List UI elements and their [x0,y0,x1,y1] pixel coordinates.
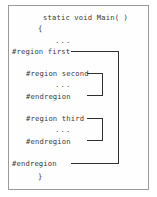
bracket-region-first-top-rule [71,51,119,52]
code-line-endregion-third: #endregion [26,137,71,146]
code-line-body-ellipsis: ... [55,36,72,45]
bracket-region-third-bottom-rule [87,140,103,141]
bracket-region-second-bottom-rule [87,95,103,96]
bracket-region-first-spine [118,51,119,164]
code-line-second-ellipsis: ... [55,80,72,89]
region-nesting-diagram: static void Main( ) { ... #region first … [0,0,157,197]
figure-frame: static void Main( ) { ... #region first … [8,5,149,190]
code-line-region-third: #region third [26,114,84,123]
code-line-endregion-second: #endregion [26,92,71,101]
code-line-third-ellipsis: ... [55,125,72,134]
bracket-region-second-top-rule [87,73,103,74]
code-line-method-signature: static void Main( ) [43,13,128,22]
bracket-region-first-bottom-rule [71,163,119,164]
code-line-open-brace: { [38,24,42,33]
code-line-endregion-first: #endregion [12,159,57,168]
code-line-region-second: #region second [26,69,89,78]
bracket-region-third-spine [102,118,103,141]
bracket-region-second-spine [102,73,103,96]
bracket-region-third-top-rule [87,118,103,119]
code-line-close-brace: } [38,172,42,181]
code-line-region-first: #region first [12,47,70,56]
